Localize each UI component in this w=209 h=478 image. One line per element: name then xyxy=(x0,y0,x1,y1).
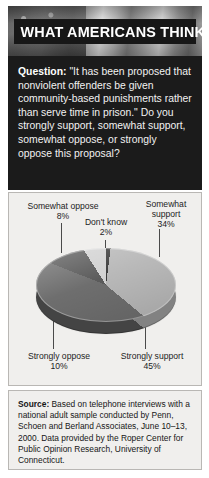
question-paragraph: Question: "It has been proposed that non… xyxy=(18,65,192,160)
header-banner: WHAT AMERICANS THINK xyxy=(8,6,202,56)
callout-somewhat-oppose-name: Somewhat oppose xyxy=(27,201,98,211)
source-paragraph: Source: Based on telephone interviews wi… xyxy=(18,399,192,466)
callout-strongly-oppose-name: Strongly oppose xyxy=(28,351,90,361)
callout-dont-know-name: Don't know xyxy=(85,217,127,227)
callout-strongly-support-name: Strongly support xyxy=(121,351,184,361)
callout-dont-know-value: 2% xyxy=(75,227,137,237)
callout-strongly-support: Strongly support 45% xyxy=(109,351,195,371)
callout-dont-know: Don't know 2% xyxy=(75,217,137,237)
callout-strongly-oppose-value: 10% xyxy=(15,361,103,371)
callout-somewhat-support-value: 34% xyxy=(135,219,197,229)
title-band: WHAT AMERICANS THINK xyxy=(14,19,196,44)
question-block: Question: "It has been proposed that non… xyxy=(8,56,202,190)
callout-strongly-oppose: Strongly oppose 10% xyxy=(15,351,103,371)
pie-chart-top xyxy=(36,248,176,322)
source-label: Source: xyxy=(18,399,49,409)
what-americans-think-infographic: WHAT AMERICANS THINK Question: "It has b… xyxy=(0,0,209,478)
page-title: WHAT AMERICANS THINK xyxy=(14,23,202,41)
callout-somewhat-support: Somewhat support 34% xyxy=(135,199,197,229)
callout-somewhat-support-line2: support xyxy=(152,209,181,219)
pie-chart xyxy=(36,248,176,340)
source-panel: Source: Based on telephone interviews wi… xyxy=(8,390,202,470)
question-label: Question: xyxy=(18,66,67,77)
callout-somewhat-support-line1: Somewhat xyxy=(146,199,187,209)
question-body: "It has been proposed that nonviolent of… xyxy=(18,66,192,159)
callout-strongly-support-value: 45% xyxy=(109,361,195,371)
pie-chart-panel: Somewhat oppose 8% Don't know 2% Somewha… xyxy=(8,192,202,386)
